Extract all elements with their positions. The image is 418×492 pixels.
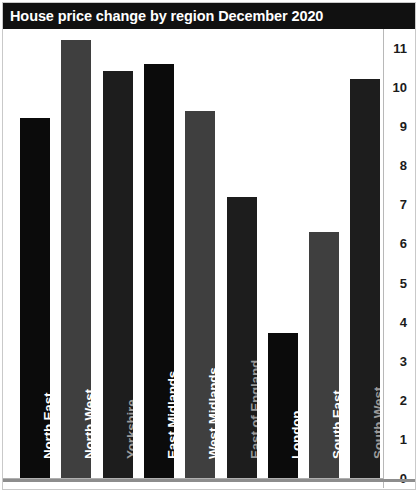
y-tick-label: 7	[400, 198, 407, 211]
page-title: House price change by region December 20…	[3, 8, 323, 24]
plot-area: North EastNorth WestYorkshireEast Midlan…	[3, 29, 415, 488]
y-tick-label: 5	[400, 276, 407, 289]
bar-label: East Midlands	[165, 370, 174, 458]
bar-label: Yorkshire	[124, 399, 133, 458]
bar-label: North West	[82, 389, 91, 459]
bar-label: East of England	[248, 359, 257, 458]
y-tick-label: 0	[400, 472, 407, 485]
bar-label: South West	[371, 387, 380, 459]
bar-yorkshire[interactable]: Yorkshire	[103, 71, 133, 478]
chart-title-bar: House price change by region December 20…	[3, 3, 415, 29]
y-tick-label: 11	[393, 42, 407, 55]
bar-london[interactable]: London	[268, 333, 298, 478]
bar-south-east[interactable]: South East	[309, 232, 339, 478]
y-tick-label: 10	[393, 81, 407, 94]
chart-page: House price change by region December 20…	[0, 0, 418, 492]
bar-label: North East	[41, 392, 50, 458]
bar-series: North EastNorth WestYorkshireEast Midlan…	[3, 29, 381, 488]
bar-north-west[interactable]: North West	[61, 40, 91, 478]
bar-east-of-england[interactable]: East of England	[227, 197, 257, 478]
y-tick-label: 4	[400, 315, 407, 328]
bar-south-west[interactable]: South West	[350, 79, 380, 478]
y-tick-label: 9	[400, 120, 407, 133]
y-axis: 11109876543210	[383, 29, 415, 488]
y-tick-label: 1	[400, 432, 407, 445]
bar-west-midlands[interactable]: West Midlands	[185, 111, 215, 478]
y-tick-label: 8	[400, 159, 407, 172]
bar-label: West Midlands	[206, 367, 215, 459]
bar-east-midlands[interactable]: East Midlands	[144, 64, 174, 478]
y-tick-label: 2	[400, 393, 407, 406]
bottom-rule	[3, 479, 415, 482]
y-tick-label: 3	[400, 354, 407, 367]
bar-label: South East	[330, 390, 339, 459]
bar-north-east[interactable]: North East	[20, 118, 50, 478]
y-axis-line	[383, 29, 384, 488]
y-tick-label: 6	[400, 237, 407, 250]
bar-label: London	[289, 410, 298, 458]
